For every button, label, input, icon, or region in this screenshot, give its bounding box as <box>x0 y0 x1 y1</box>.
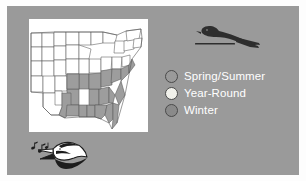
circle-icon <box>165 104 178 117</box>
legend-item-winter[interactable]: Winter <box>165 102 297 118</box>
perched-bird-silhouette <box>190 23 260 51</box>
bird-silhouette-icon <box>190 23 260 51</box>
map-panel <box>29 19 148 132</box>
figure-panel: Spring/Summer Year-Round Winter <box>7 6 299 175</box>
circle-icon <box>165 70 178 83</box>
circle-icon <box>165 87 178 100</box>
legend-item-label: Winter <box>184 104 218 117</box>
singing-bird-icon <box>29 135 89 176</box>
bird-eye <box>206 29 208 31</box>
bird-head-shape <box>38 142 87 169</box>
us-range-map-svg <box>29 19 148 132</box>
singing-bird-head <box>29 135 89 176</box>
legend: Spring/Summer Year-Round Winter <box>165 68 297 119</box>
legend-item-label: Year-Round <box>184 87 246 100</box>
legend-item-year-round[interactable]: Year-Round <box>165 85 297 101</box>
range-map-figure: Spring/Summer Year-Round Winter <box>0 0 306 181</box>
legend-item-spring-summer[interactable]: Spring/Summer <box>165 68 297 84</box>
legend-item-label: Spring/Summer <box>184 70 265 83</box>
